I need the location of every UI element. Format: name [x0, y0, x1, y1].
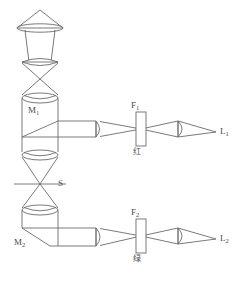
projection-lens-lower-icon — [178, 228, 182, 244]
optics-schematic — [0, 0, 243, 282]
beam-condenser-crossover-upper — [22, 63, 58, 95]
label-output-l2: L2 — [220, 234, 229, 243]
objective-lens-lower-icon — [96, 228, 100, 246]
label-filter-f2-color: 绿 — [133, 255, 141, 263]
condenser-lens-upper-icon — [22, 59, 58, 66]
label-output-l1: L1 — [220, 127, 229, 136]
beam-lower-to-l2 — [178, 228, 216, 244]
relay-lens-lower-icon — [22, 150, 58, 160]
label-mirror-m1: M1 — [28, 106, 39, 115]
label-slit-s: S — [58, 179, 63, 188]
beam-m2-to-right — [22, 228, 96, 246]
label-filter-f2: F2 — [131, 208, 139, 217]
optical-diagram-canvas: M1 M2 S F1 红 F2 绿 L1 L2 — [0, 0, 243, 282]
label-filter-f1-color: 红 — [133, 148, 141, 156]
beam-m1-to-right — [22, 121, 96, 137]
condenser-lens-lower-icon — [22, 205, 58, 215]
objective-lens-upper-icon — [96, 121, 100, 137]
collector-lens-icon — [22, 93, 58, 103]
beam-upper-to-l1 — [178, 121, 216, 137]
beam-to-slit — [22, 157, 58, 208]
filter-f2-icon — [136, 219, 146, 253]
filter-f1-icon — [136, 112, 146, 146]
projection-lens-upper-icon — [178, 121, 182, 137]
label-filter-f1: F1 — [131, 101, 139, 110]
beam-lamp-to-condenser — [25, 30, 55, 62]
lamp-reflector-icon — [17, 10, 63, 32]
label-mirror-m2: M2 — [14, 238, 25, 247]
